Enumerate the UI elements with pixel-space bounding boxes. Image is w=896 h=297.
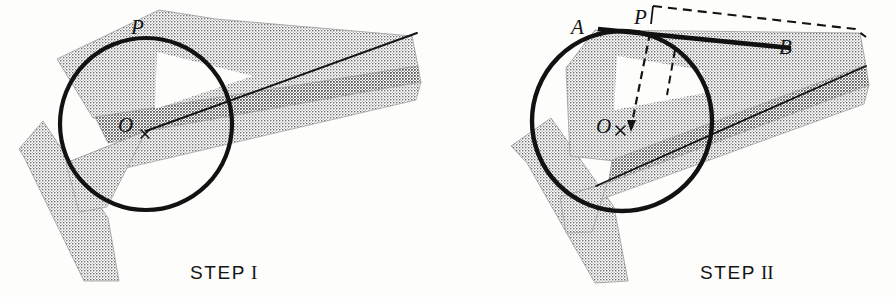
caption-step-2: STEPII [700,262,774,284]
label-point-o-step-2: O [596,114,611,138]
label-point-o-step-1: O [118,113,133,137]
caption-step-2-numeral: II [761,262,774,283]
label-point-p-step-2: P [633,5,647,29]
label-point-p-step-1: P [130,15,144,39]
tick-at-p [651,6,653,24]
figure-root: P O [0,0,896,297]
label-point-a-step-2: A [569,15,584,39]
caption-step-1-word: STEP [190,262,246,283]
square-blade [57,10,421,212]
panel-step-2: A P B O [511,5,869,283]
panel-step-1: P O [19,10,421,281]
label-point-b-step-2: B [779,35,792,59]
caption-step-1: STEPI [190,262,257,284]
caption-step-1-numeral: I [251,262,257,283]
caption-step-2-word: STEP [700,262,756,283]
construction-figure-canvas: P O [0,0,896,297]
